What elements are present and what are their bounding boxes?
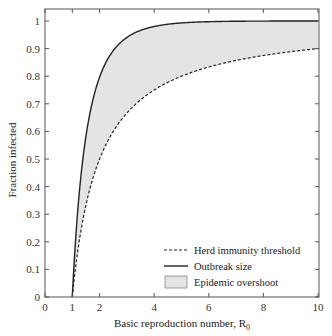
x-tick-label: 10 <box>313 301 325 313</box>
y-tick-label: 0.4 <box>26 181 40 193</box>
chart: 01246810 00.10.20.30.40.50.60.70.80.91 B… <box>0 0 332 336</box>
legend: Herd immunity threshold Outbreak size Ep… <box>164 245 301 288</box>
y-tick-label: 0.7 <box>26 98 40 110</box>
y-tick-label: 0.8 <box>26 70 40 82</box>
x-tick-label: 1 <box>70 301 76 313</box>
y-tick-label: 0.5 <box>26 153 40 165</box>
x-axis-label: Basic reproduction number, R0 <box>114 317 250 332</box>
x-tick-label: 8 <box>261 301 267 313</box>
y-axis-label: Fraction infected <box>6 122 18 197</box>
y-tick-label: 0 <box>35 291 41 303</box>
x-tick-label: 4 <box>151 301 157 313</box>
y-tick-label: 0.3 <box>26 208 40 220</box>
legend-label-outbreak-size: Outbreak size <box>194 261 252 272</box>
legend-label-epidemic-overshoot: Epidemic overshoot <box>194 277 278 288</box>
y-tick-label: 0.9 <box>26 43 40 55</box>
y-tick-label: 0.6 <box>26 125 40 137</box>
y-tick-label: 0.2 <box>26 236 40 248</box>
x-tick-label: 2 <box>97 301 103 313</box>
x-tick-label: 0 <box>42 301 48 313</box>
legend-fill-swatch-icon <box>165 276 187 288</box>
y-tick-label: 0.1 <box>26 263 40 275</box>
x-tick-label: 6 <box>206 301 212 313</box>
legend-label-herd-immunity: Herd immunity threshold <box>194 245 301 256</box>
y-tick-label: 1 <box>35 15 41 27</box>
